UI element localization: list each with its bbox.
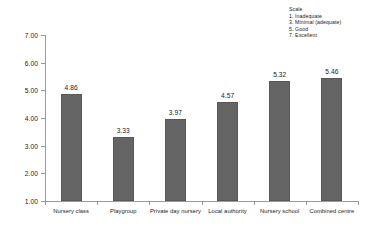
legend-title: Scale (289, 6, 374, 13)
legend-item: 7. Excellent (289, 32, 374, 39)
x-axis-tick (358, 201, 359, 205)
bar-chart: Scale 1. Inadequate 3. Minimal (adequate… (0, 0, 374, 239)
bar-value-label: 5.32 (260, 71, 300, 78)
chart-legend: Scale 1. Inadequate 3. Minimal (adequate… (289, 6, 374, 39)
bar-value-label: 4.57 (208, 92, 248, 99)
x-axis-category-label: Playgroup (97, 208, 149, 215)
legend-item: 5. Good (289, 26, 374, 33)
x-axis-tick (149, 201, 150, 205)
bar (61, 94, 82, 201)
y-axis-tick (41, 146, 45, 147)
bar-value-label: 4.86 (51, 84, 91, 91)
bar (321, 78, 342, 201)
x-axis-tick (202, 201, 203, 205)
legend-item: 3. Minimal (adequate) (289, 19, 374, 26)
y-axis-tick-label: 3.00 (8, 142, 38, 149)
legend-item: 1. Inadequate (289, 13, 374, 20)
bar (269, 81, 290, 201)
x-axis-tick (254, 201, 255, 205)
y-axis-tick (41, 35, 45, 36)
x-axis-category-label: Combined centre (306, 208, 358, 215)
y-axis-tick-label: 6.00 (8, 59, 38, 66)
y-axis-tick-label: 1.00 (8, 198, 38, 205)
y-axis-tick (41, 63, 45, 64)
y-axis-tick (41, 118, 45, 119)
x-axis-tick (97, 201, 98, 205)
y-axis-line (45, 35, 46, 201)
x-axis-tick (306, 201, 307, 205)
y-axis-tick-label: 7.00 (8, 32, 38, 39)
bar-value-label: 3.97 (155, 109, 195, 116)
y-axis-tick-label: 2.00 (8, 170, 38, 177)
bar-value-label: 5.46 (312, 68, 352, 75)
x-axis-category-label: Nursery school (254, 208, 306, 215)
x-axis-category-label: Nursery class (45, 208, 97, 215)
y-axis-tick-label: 5.00 (8, 87, 38, 94)
bar (217, 102, 238, 201)
x-axis-category-label: Local authority (202, 208, 254, 215)
x-axis-category-label: Private day nursery (149, 208, 201, 215)
y-axis-tick (41, 90, 45, 91)
bar (113, 137, 134, 201)
y-axis-tick (41, 173, 45, 174)
bar-value-label: 3.33 (103, 127, 143, 134)
bar (165, 119, 186, 201)
x-axis-tick (45, 201, 46, 205)
y-axis-tick-label: 4.00 (8, 115, 38, 122)
